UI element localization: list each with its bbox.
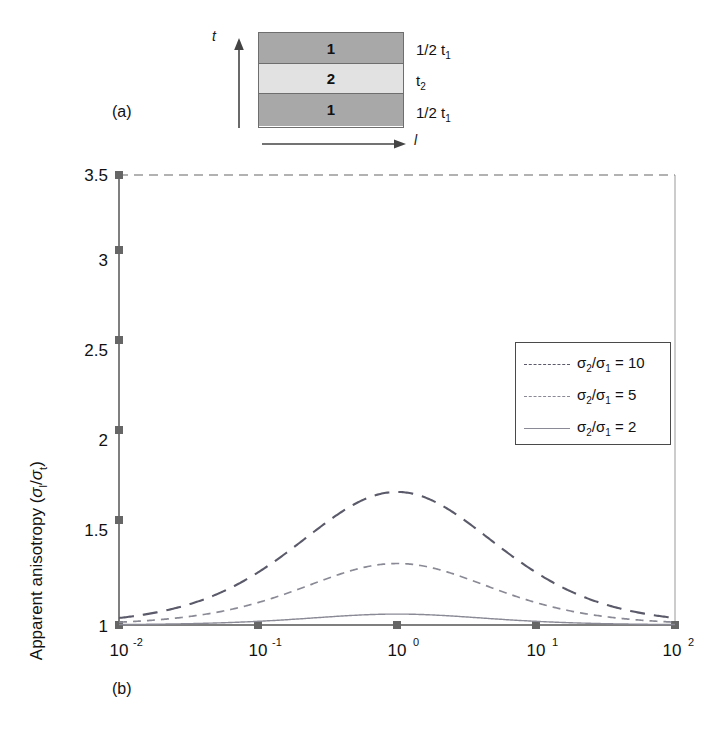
- t-axis-label: t: [212, 28, 216, 44]
- panel-b-chart: 3.5 3 2.5 2 1.5 1 10 -2 10 -1 10 0 10 1: [0, 160, 726, 739]
- panel-b-caption: (b): [112, 680, 132, 698]
- thickness-top-text: 1/2 t: [416, 41, 445, 58]
- legend-swatch-long-dash-icon: [524, 364, 570, 365]
- thickness-top-sub: 1: [445, 50, 451, 61]
- xtick-mantissa-1: 10: [249, 641, 268, 660]
- thickness-label-bottom: 1/2 t1: [416, 104, 451, 124]
- anisotropy-plot: 3.5 3 2.5 2 1.5 1 10 -2 10 -1 10 0 10 1: [0, 160, 726, 739]
- layer-bottom: 1: [259, 94, 403, 126]
- legend-label-0: σ2/σ1 = 10: [577, 354, 645, 374]
- ytick-label-1: 1: [99, 617, 108, 636]
- thickness-bottom-text: 1/2 t: [416, 104, 445, 121]
- xtick-label-1e0: 10 0: [388, 636, 420, 660]
- layer-bottom-label: 1: [327, 101, 335, 118]
- panel-a-diagram: (a) t 1 2 1 1/2 t1 t2 1/2 t1: [0, 0, 726, 170]
- layer-middle-label: 2: [327, 70, 335, 87]
- legend[interactable]: σ2/σ1 = 10 σ2/σ1 = 5 σ2/σ1 = 2: [515, 342, 671, 445]
- legend-label-1: σ2/σ1 = 5: [577, 386, 636, 406]
- thickness-label-middle: t2: [416, 72, 426, 92]
- ytick-label-3p5: 3.5: [84, 166, 108, 185]
- layer-middle: 2: [259, 64, 403, 93]
- layer-top-label: 1: [327, 40, 335, 57]
- ytick-label-1p5: 1.5: [84, 521, 108, 540]
- curve-ratio-10: [119, 492, 675, 618]
- xtick-exponent-0: -2: [133, 636, 143, 648]
- legend-swatch-short-dash-icon: [524, 396, 570, 397]
- layer-top: 1: [259, 33, 403, 64]
- l-axis-label: l: [414, 132, 417, 148]
- panel-a-caption: (a): [112, 103, 132, 121]
- xtick-mantissa-2: 10: [388, 641, 407, 660]
- legend-label-2: σ2/σ1 = 2: [577, 418, 636, 438]
- y-axis-title: Apparent anisotropy (σl/σt): [27, 351, 48, 739]
- legend-item-0[interactable]: σ2/σ1 = 10: [516, 348, 670, 380]
- xtick-label-1em2: 10 -2: [110, 636, 143, 660]
- ytick-label-2: 2: [99, 431, 108, 450]
- legend-item-2[interactable]: σ2/σ1 = 2: [516, 412, 670, 444]
- xtick-mantissa-0: 10: [110, 641, 129, 660]
- xtick-exponent-2: 0: [413, 636, 419, 648]
- xtick-exponent-3: 1: [552, 636, 558, 648]
- xtick-label-1em1: 10 -1: [249, 636, 282, 660]
- l-axis-arrow-icon: [262, 136, 408, 152]
- thickness-bottom-sub: 1: [445, 113, 451, 124]
- xtick-label-1e1: 10 1: [527, 636, 559, 660]
- y-axis-title-text: Apparent anisotropy (: [27, 498, 46, 661]
- figure-root: (a) t 1 2 1 1/2 t1 t2 1/2 t1: [0, 0, 726, 739]
- xtick-label-1e2: 10 2: [663, 636, 695, 660]
- legend-swatch-solid-icon: [524, 428, 570, 429]
- xtick-exponent-1: -1: [272, 636, 282, 648]
- ytick-label-3: 3: [99, 251, 108, 270]
- thickness-label-top: 1/2 t1: [416, 41, 451, 61]
- xtick-mantissa-3: 10: [527, 641, 546, 660]
- thickness-middle-sub: 2: [420, 81, 426, 92]
- legend-item-1[interactable]: σ2/σ1 = 5: [516, 380, 670, 412]
- t-axis-arrow-icon: [226, 36, 252, 128]
- ytick-label-2p5: 2.5: [84, 341, 108, 360]
- xtick-mantissa-4: 10: [663, 641, 682, 660]
- layered-medium-diagram: 1 2 1: [258, 32, 404, 128]
- xtick-exponent-4: 2: [688, 636, 694, 648]
